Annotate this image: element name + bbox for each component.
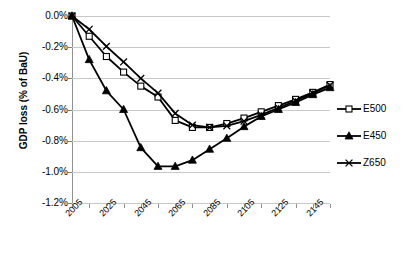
data-point-E500-2065 xyxy=(172,117,178,123)
legend-label-2: Z650 xyxy=(363,158,386,168)
data-point-E450-2095 xyxy=(223,134,231,141)
series-line-E500 xyxy=(72,16,330,127)
data-point-E500-2025 xyxy=(103,54,109,60)
chart-legend: E500 E450 Z650 xyxy=(336,95,413,176)
legend-item-1[interactable]: E450 xyxy=(336,122,413,149)
data-point-E500-2015 xyxy=(86,33,92,39)
series-line-Z650 xyxy=(72,16,330,127)
series-line-E450 xyxy=(72,16,330,166)
data-point-E450-2015 xyxy=(85,55,93,62)
gdp-loss-line-chart: GDP loss (% of BaU) 0.0%-0.2%-0.4%-0.6%-… xyxy=(0,0,413,261)
data-point-E450-2075 xyxy=(188,156,196,163)
legend-item-0[interactable]: E500 xyxy=(336,95,413,122)
data-point-E450-2025 xyxy=(102,87,110,94)
data-point-E500-2045 xyxy=(138,83,144,89)
legend-marker-open-square xyxy=(346,106,352,112)
data-point-E450-2085 xyxy=(206,145,214,152)
data-point-E500-2035 xyxy=(121,69,127,75)
legend-marker-x-cross-icon xyxy=(336,156,362,170)
legend-label-1: E450 xyxy=(363,131,386,141)
series-Z650 xyxy=(69,13,334,131)
data-point-Z650-2025 xyxy=(103,43,110,50)
legend-marker-filled-triangle-icon xyxy=(336,129,362,143)
series-E450 xyxy=(68,12,334,170)
legend-item-2[interactable]: Z650 xyxy=(336,149,413,176)
data-point-E450-2045 xyxy=(137,143,145,150)
data-point-Z650-2045 xyxy=(137,75,144,82)
data-point-Z650-2035 xyxy=(120,59,127,66)
legend-marker-open-square-icon xyxy=(336,102,362,116)
data-point-Z650-2015 xyxy=(86,26,93,33)
data-point-Z650-2065 xyxy=(172,110,179,117)
series-E500 xyxy=(69,13,333,130)
legend-label-0: E500 xyxy=(363,104,386,114)
